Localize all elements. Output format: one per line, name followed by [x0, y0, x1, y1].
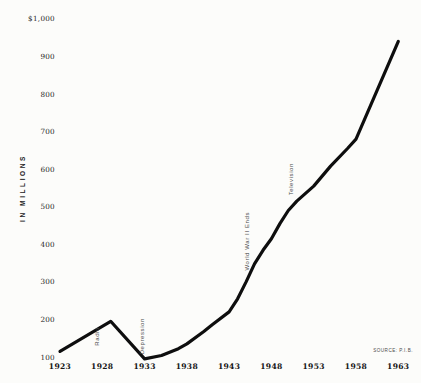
annotation-radio: Radio — [94, 327, 100, 346]
annotation-television: Television — [288, 163, 294, 195]
revenue-curve-plot — [0, 0, 421, 383]
line-chart: IN MILLIONS $1,0009008007006005004003002… — [0, 0, 421, 383]
revenue-line — [60, 41, 398, 359]
annotation-world-war-ii-ends: World War II Ends — [244, 212, 250, 271]
annotation-depression: Depression — [139, 318, 145, 354]
source-credit: SOURCE: P.I.B. — [347, 349, 413, 354]
